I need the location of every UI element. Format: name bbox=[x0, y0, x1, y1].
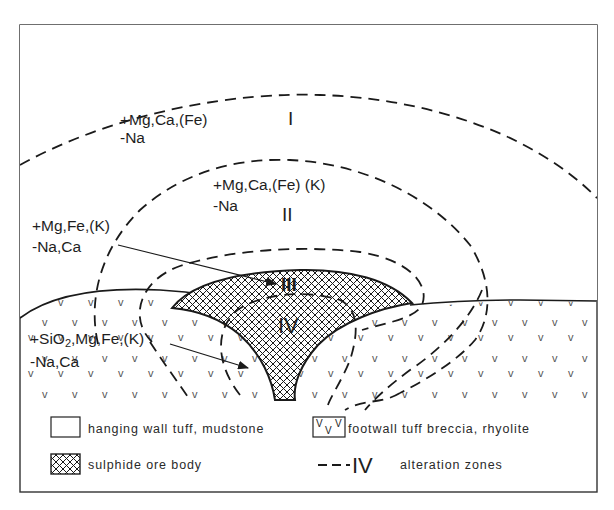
svg-text:v: v bbox=[432, 316, 438, 328]
svg-text:v: v bbox=[522, 388, 528, 400]
zone-i-losses-label: -Na bbox=[120, 129, 145, 146]
zone-iii-numeral: III bbox=[281, 274, 297, 295]
svg-text:v: v bbox=[522, 352, 528, 364]
svg-text:v: v bbox=[162, 316, 168, 328]
svg-text:v: v bbox=[538, 331, 544, 343]
legend-label-hanging-wall: hanging wall tuff, mudstone bbox=[88, 422, 264, 436]
svg-text:v: v bbox=[402, 388, 408, 400]
svg-text:v: v bbox=[132, 316, 138, 328]
svg-text:v: v bbox=[102, 316, 108, 328]
svg-text:v: v bbox=[582, 352, 588, 364]
svg-text:v: v bbox=[582, 388, 588, 400]
svg-text:v: v bbox=[552, 316, 558, 328]
zone-iv-gains-label: +SiO2,Mg,Fe,(K) bbox=[30, 330, 144, 349]
svg-text:v: v bbox=[538, 367, 544, 379]
legend-footwall-symbol-v3: V bbox=[335, 418, 342, 429]
zone-iv-numeral: IV bbox=[278, 313, 299, 338]
svg-text:v: v bbox=[342, 388, 348, 400]
svg-text:v: v bbox=[508, 331, 514, 343]
svg-text:v: v bbox=[448, 367, 454, 379]
svg-text:v: v bbox=[432, 388, 438, 400]
svg-text:v: v bbox=[118, 367, 124, 379]
svg-text:v: v bbox=[358, 367, 364, 379]
svg-text:v: v bbox=[402, 352, 408, 364]
svg-text:v: v bbox=[102, 388, 108, 400]
svg-text:v: v bbox=[178, 367, 184, 379]
svg-text:v: v bbox=[358, 331, 364, 343]
svg-text:v: v bbox=[132, 352, 138, 364]
legend-swatch-ore-body bbox=[51, 454, 80, 474]
svg-text:v: v bbox=[222, 388, 228, 400]
legend-footwall-symbol-v2: V bbox=[325, 425, 332, 436]
svg-text:v: v bbox=[192, 388, 198, 400]
svg-text:v: v bbox=[552, 388, 558, 400]
svg-text:v: v bbox=[88, 296, 94, 308]
svg-text:v: v bbox=[582, 316, 588, 328]
legend-footwall-symbol-v1: V bbox=[316, 418, 323, 429]
svg-text:v: v bbox=[148, 296, 154, 308]
svg-text:v: v bbox=[72, 316, 78, 328]
svg-text:v: v bbox=[552, 352, 558, 364]
zone-iv-losses-label: -Na,Ca bbox=[30, 353, 79, 370]
svg-text:v: v bbox=[132, 388, 138, 400]
svg-text:v: v bbox=[462, 352, 468, 364]
svg-text:v: v bbox=[148, 367, 154, 379]
svg-text:v: v bbox=[402, 316, 408, 328]
svg-text:v: v bbox=[492, 316, 498, 328]
svg-text:v: v bbox=[162, 388, 168, 400]
svg-text:v: v bbox=[208, 331, 214, 343]
svg-text:v: v bbox=[118, 296, 124, 308]
zone-ii-numeral: II bbox=[282, 204, 293, 225]
svg-text:v: v bbox=[388, 331, 394, 343]
zone-iii-losses-label: -Na,Ca bbox=[32, 238, 81, 255]
svg-text:v: v bbox=[312, 352, 318, 364]
svg-text:v: v bbox=[88, 367, 94, 379]
svg-text:v: v bbox=[178, 331, 184, 343]
svg-text:v: v bbox=[42, 388, 48, 400]
svg-text:v: v bbox=[492, 352, 498, 364]
svg-text:v: v bbox=[192, 352, 198, 364]
svg-text:v: v bbox=[192, 316, 198, 328]
svg-text:v: v bbox=[372, 352, 378, 364]
svg-text:v: v bbox=[522, 316, 528, 328]
legend-swatch-hanging-wall bbox=[51, 417, 80, 437]
svg-text:v: v bbox=[388, 367, 394, 379]
legend-label-ore-body: sulphide ore body bbox=[88, 458, 202, 472]
alteration-zone-diagram: vvvvvvvvvvvvvvvvvvvvvvvvvvvvvvvvvvvvvvvv… bbox=[0, 0, 614, 510]
svg-text:v: v bbox=[252, 388, 258, 400]
zone-iii-gains-label: +Mg,Fe,(K) bbox=[32, 217, 110, 234]
svg-text:v: v bbox=[418, 367, 424, 379]
svg-text:v: v bbox=[238, 367, 244, 379]
legend-alteration-numeral: IV bbox=[352, 453, 373, 478]
svg-text:v: v bbox=[568, 367, 574, 379]
zone-i-gains-label: +Mg,Ca,(Fe) bbox=[120, 111, 207, 128]
svg-text:v: v bbox=[418, 331, 424, 343]
zone-ii-gains-label: +Mg,Ca,(Fe) (K) bbox=[213, 176, 325, 193]
legend-label-footwall: footwall tuff breccia, rhyolite bbox=[348, 422, 530, 436]
svg-text:v: v bbox=[102, 352, 108, 364]
svg-text:v: v bbox=[312, 388, 318, 400]
svg-text:v: v bbox=[568, 331, 574, 343]
svg-text:v: v bbox=[72, 388, 78, 400]
svg-text:v: v bbox=[508, 367, 514, 379]
svg-text:v: v bbox=[492, 388, 498, 400]
svg-text:v: v bbox=[208, 367, 214, 379]
svg-text:v: v bbox=[342, 352, 348, 364]
svg-text:v: v bbox=[42, 316, 48, 328]
zone-i-numeral: I bbox=[288, 108, 293, 129]
svg-text:v: v bbox=[478, 331, 484, 343]
svg-text:v: v bbox=[462, 388, 468, 400]
legend-label-alteration: alteration zones bbox=[400, 458, 503, 472]
zone-ii-losses-label: -Na bbox=[213, 197, 238, 214]
svg-text:v: v bbox=[328, 367, 334, 379]
svg-text:v: v bbox=[478, 367, 484, 379]
